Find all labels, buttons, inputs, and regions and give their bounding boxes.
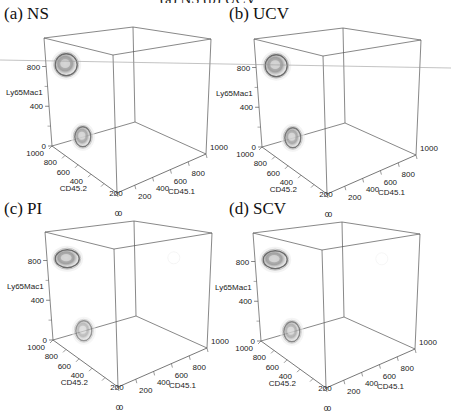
box-edge bbox=[134, 221, 136, 316]
box-edge bbox=[254, 39, 262, 147]
x-tick-label: 200 bbox=[347, 387, 361, 396]
y-tick-label: 1000 bbox=[235, 344, 253, 353]
y-tick-label: 1000 bbox=[26, 149, 44, 158]
y-tick bbox=[63, 349, 66, 352]
figure-canvas: 0400800Ly65Mac102004006008001000CD45.202… bbox=[0, 0, 451, 419]
y-tick-label: 800 bbox=[253, 353, 267, 362]
cluster-upper bbox=[51, 246, 83, 272]
x-tick-label: 0 bbox=[328, 210, 333, 219]
cluster-upper bbox=[51, 50, 81, 80]
cluster-lower bbox=[71, 123, 95, 151]
box-edge bbox=[416, 40, 421, 155]
box-edge bbox=[136, 316, 207, 348]
x-tick bbox=[379, 365, 380, 369]
x-tick-label: 1000 bbox=[419, 338, 437, 347]
y-tick-label: 800 bbox=[44, 158, 58, 167]
x-tick bbox=[363, 178, 364, 182]
y-tick-label: 200 bbox=[318, 384, 332, 393]
z-tick-label: 400 bbox=[239, 297, 253, 306]
box-edge bbox=[343, 28, 421, 40]
box-edge bbox=[135, 122, 206, 154]
box-edge bbox=[253, 222, 342, 233]
box-edge bbox=[322, 234, 420, 250]
y-tick-label: 600 bbox=[266, 363, 280, 372]
box-edge bbox=[343, 28, 345, 123]
box-edge bbox=[134, 221, 212, 233]
box-edge bbox=[323, 40, 421, 56]
y-tick-label: 1000 bbox=[27, 343, 45, 352]
x-tick bbox=[362, 372, 363, 376]
box-edge bbox=[113, 55, 117, 193]
y-tick bbox=[101, 184, 104, 187]
box-edge bbox=[45, 232, 114, 249]
x-tick bbox=[207, 348, 208, 352]
box-edge bbox=[44, 27, 133, 38]
x-tick bbox=[397, 357, 398, 361]
x-tick-label: 1000 bbox=[211, 337, 229, 346]
y-axis-label: CD45.2 bbox=[60, 184, 88, 193]
panel-title-a: (a) NS bbox=[4, 5, 49, 22]
x-axis-label: CD45.1 bbox=[168, 187, 196, 196]
x-tick-label: 0 bbox=[119, 403, 124, 412]
y-tick bbox=[272, 156, 275, 159]
y-tick bbox=[88, 174, 91, 177]
x-tick-label: 200 bbox=[139, 386, 153, 395]
y-tick-label: 600 bbox=[58, 362, 72, 371]
y-tick bbox=[271, 350, 274, 353]
y-tick bbox=[102, 378, 105, 381]
x-tick bbox=[188, 162, 189, 166]
x-axis-label: CD45.1 bbox=[169, 381, 197, 390]
y-tick bbox=[258, 341, 261, 344]
x-tick-label: 0 bbox=[327, 404, 332, 413]
box-edge bbox=[254, 28, 343, 39]
y-tick bbox=[285, 166, 288, 169]
z-tick-label: 400 bbox=[30, 102, 44, 111]
y-tick bbox=[259, 147, 262, 150]
cluster-lower bbox=[280, 318, 304, 346]
cluster-upper bbox=[261, 51, 291, 81]
x-tick bbox=[345, 186, 346, 190]
y-axis-label: CD45.2 bbox=[270, 185, 298, 194]
box-edge bbox=[345, 123, 416, 155]
y-tick bbox=[310, 379, 313, 382]
x-tick-label: 800 bbox=[401, 364, 415, 373]
y-tick bbox=[297, 369, 300, 372]
y-tick bbox=[62, 155, 65, 158]
box-edge bbox=[133, 27, 211, 39]
cluster-lower bbox=[72, 317, 96, 345]
x-tick bbox=[136, 379, 137, 383]
y-tick bbox=[311, 185, 314, 188]
x-tick bbox=[344, 380, 345, 384]
z-tick-label: 800 bbox=[27, 63, 41, 72]
x-tick-label: 600 bbox=[175, 371, 189, 380]
y-tick-label: 200 bbox=[109, 189, 123, 198]
x-tick-label: 600 bbox=[383, 372, 397, 381]
z-axis-label: Ly65Mac1 bbox=[215, 283, 252, 292]
z-tick-label: 400 bbox=[240, 103, 254, 112]
z-axis-label: Ly65Mac1 bbox=[6, 88, 43, 97]
x-tick bbox=[206, 154, 207, 158]
z-tick-label: 800 bbox=[28, 257, 42, 266]
x-tick bbox=[154, 371, 155, 375]
y-tick bbox=[284, 360, 287, 363]
y-tick bbox=[75, 165, 78, 168]
box-edge bbox=[344, 317, 415, 349]
box-edge bbox=[323, 56, 327, 194]
x-tick bbox=[189, 356, 190, 360]
box-edge bbox=[254, 39, 323, 56]
box-edge bbox=[113, 39, 211, 55]
y-tick-label: 600 bbox=[57, 168, 71, 177]
box-edge bbox=[44, 38, 113, 55]
y-tick-label: 600 bbox=[267, 169, 281, 178]
y-tick-label: 800 bbox=[45, 352, 59, 361]
y-tick bbox=[50, 340, 53, 343]
box-edge bbox=[322, 250, 326, 388]
x-axis-label: CD45.1 bbox=[377, 382, 405, 391]
x-tick bbox=[170, 170, 171, 174]
y-tick-label: 200 bbox=[110, 383, 124, 392]
y-tick-label: 1000 bbox=[236, 150, 254, 159]
x-tick-label: 200 bbox=[138, 192, 152, 201]
panel-a: 0400800Ly65Mac102004006008001000CD45.202… bbox=[6, 27, 228, 218]
panel-title-b: (b) UCV bbox=[229, 5, 289, 22]
cluster-faint bbox=[168, 252, 180, 264]
